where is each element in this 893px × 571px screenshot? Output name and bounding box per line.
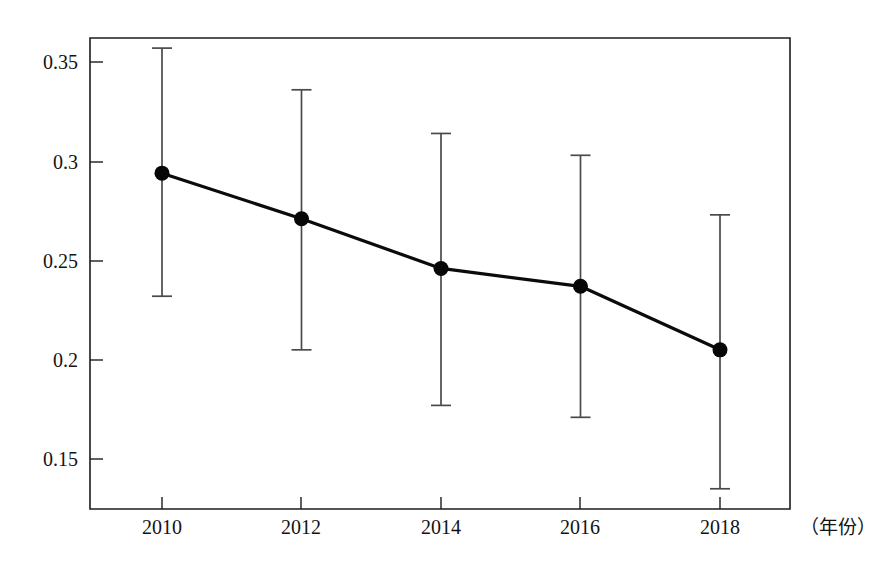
x-tick-label-2014: 2014	[421, 516, 461, 538]
line-chart-with-error-bars: 0.35 0.3 0.25 0.2 0.15 2010 2012 2014 20…	[0, 0, 893, 571]
x-axis-caption: （年份）	[800, 517, 876, 538]
data-point-marker	[155, 166, 170, 181]
x-tick-label-2010: 2010	[142, 516, 182, 538]
chart-figure: 0.35 0.3 0.25 0.2 0.15 2010 2012 2014 20…	[0, 0, 893, 571]
data-point-marker	[434, 261, 449, 276]
y-tick-label-4: 0.15	[43, 448, 78, 470]
y-tick-label-3: 0.2	[53, 349, 78, 371]
y-tick-label-2: 0.25	[43, 250, 78, 272]
x-tick-label-2012: 2012	[281, 516, 321, 538]
x-axis-tick-labels: 2010 2012 2014 2016 2018	[142, 516, 740, 538]
x-axis-ticks	[162, 497, 720, 509]
x-tick-label-2018: 2018	[700, 516, 740, 538]
data-point-marker	[573, 279, 588, 294]
x-tick-label-2016: 2016	[560, 516, 600, 538]
data-point-marker	[713, 342, 728, 357]
y-axis-tick-labels: 0.35 0.3 0.25 0.2 0.15	[43, 51, 78, 470]
y-axis-ticks	[90, 62, 103, 459]
y-tick-label-0: 0.35	[43, 51, 78, 73]
y-tick-label-1: 0.3	[53, 151, 78, 173]
data-point-marker	[294, 211, 309, 226]
